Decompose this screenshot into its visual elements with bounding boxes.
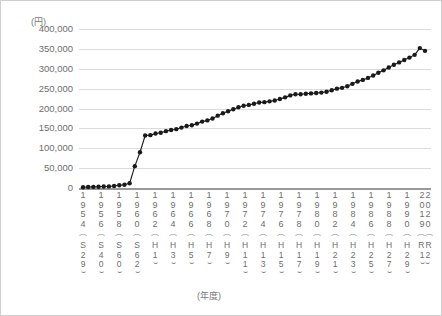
series-markers	[81, 46, 427, 190]
data-point	[418, 46, 422, 50]
data-point	[361, 78, 365, 82]
x-axis-tick-group: 1986⌒H25⌣	[364, 191, 378, 275]
data-point	[267, 99, 271, 103]
x-tick-year: 20192020	[419, 191, 430, 229]
x-tick-era: ⌒H15⌣	[277, 236, 285, 275]
chart-container: (円) 400,000350,000300,000250,000200,0001…	[0, 0, 442, 316]
x-tick-year: 1968	[206, 191, 211, 229]
x-axis-tick-group: 1968⌒H7⌣	[202, 191, 216, 266]
x-axis-tick-group: 1964⌒H3⌣	[166, 191, 180, 266]
x-tick-year: 1988	[386, 191, 391, 229]
data-point	[371, 73, 375, 77]
x-tick-year: 1970	[224, 191, 229, 229]
data-point	[81, 185, 85, 189]
data-point	[241, 104, 245, 108]
data-point	[164, 129, 168, 133]
data-point	[205, 118, 209, 122]
x-tick-year: 1966	[188, 191, 193, 229]
x-tick-era: ⌒H7⌣	[205, 236, 213, 265]
x-tick-year: 1986	[368, 191, 373, 229]
y-axis-tick-label: 400,000	[13, 23, 73, 34]
data-point	[174, 127, 178, 131]
x-tick-era: ⌒H27⌣	[385, 236, 393, 275]
y-axis-tick-label: 0	[13, 182, 73, 193]
data-point	[273, 98, 277, 102]
data-point	[309, 91, 313, 95]
data-point	[319, 90, 323, 94]
data-point	[412, 53, 416, 57]
x-tick-era: ⌒H9⌣	[223, 236, 231, 265]
data-point	[195, 121, 199, 125]
data-point	[143, 133, 147, 137]
data-point	[304, 92, 308, 96]
x-tick-year: 1982	[332, 191, 337, 229]
data-point	[257, 100, 261, 104]
data-point	[350, 82, 354, 86]
data-point	[216, 113, 220, 117]
data-point	[293, 92, 297, 96]
data-point	[314, 91, 318, 95]
data-point	[96, 185, 100, 189]
x-axis-tick-group: 1970⌒H9⌣	[220, 191, 234, 266]
x-tick-year: 1956	[98, 191, 103, 229]
data-point	[133, 164, 137, 168]
data-point	[184, 124, 188, 128]
data-point	[169, 128, 173, 132]
x-axis-tick-group: 1988⌒H27⌣	[382, 191, 396, 275]
data-point	[127, 181, 131, 185]
data-point	[345, 84, 349, 88]
data-point	[340, 86, 344, 90]
x-axis-tick-group: 1962⌒H1⌣	[148, 191, 162, 266]
data-point	[148, 133, 152, 137]
x-axis-tick-group: 1972⌒H11⌣	[238, 191, 252, 275]
y-axis-tick-label: 150,000	[13, 122, 73, 133]
data-point	[153, 131, 157, 135]
y-axis-tick-label: 100,000	[13, 142, 73, 153]
x-axis-tick-group: 1966⌒H5⌣	[184, 191, 198, 266]
x-tick-era: ⌒S29⌣	[79, 236, 87, 275]
x-tick-year: 1978	[296, 191, 301, 229]
data-point	[200, 119, 204, 123]
data-point	[226, 109, 230, 113]
y-axis-tick-label: 350,000	[13, 43, 73, 54]
x-tick-year: 1984	[350, 191, 355, 229]
data-point	[107, 184, 111, 188]
data-point	[138, 150, 142, 154]
x-tick-year: 1990	[404, 191, 409, 229]
data-point	[330, 88, 334, 92]
data-point	[231, 107, 235, 111]
x-axis-tick-group: 1958⌒S60⌣	[112, 191, 126, 275]
data-point	[402, 58, 406, 62]
data-point	[381, 68, 385, 72]
y-axis-tick-label: 50,000	[13, 162, 73, 173]
data-point	[262, 100, 266, 104]
data-point	[221, 111, 225, 115]
data-point	[407, 55, 411, 59]
data-point	[190, 123, 194, 127]
x-tick-era: ⌒H19⌣	[313, 236, 321, 275]
y-axis-tick-label: 200,000	[13, 103, 73, 114]
x-tick-era: ⌒S40⌣	[97, 236, 105, 275]
data-point	[122, 183, 126, 187]
x-axis-tick-group: 1982⌒H21⌣	[328, 191, 342, 275]
x-axis-tick-group: 1978⌒H17⌣	[292, 191, 306, 275]
x-tick-era: ⌒H5⌣	[187, 236, 195, 265]
x-tick-era: ⌒⌒RR12⌣⌣	[417, 236, 433, 265]
x-axis-tick-group: 1954⌒S29⌣	[76, 191, 90, 275]
x-tick-era: ⌒H3⌣	[169, 236, 177, 265]
data-point	[283, 95, 287, 99]
data-point	[278, 97, 282, 101]
plot-area	[79, 29, 431, 188]
data-point	[102, 184, 106, 188]
data-point	[392, 63, 396, 67]
x-tick-year: 1972	[242, 191, 247, 229]
gridline	[79, 188, 431, 190]
x-tick-era: ⌒S62⌣	[133, 236, 141, 275]
data-point	[117, 183, 121, 187]
x-axis-tick-group: 1956⌒S40⌣	[94, 191, 108, 275]
x-tick-year: 1980	[314, 191, 319, 229]
x-tick-era: ⌒H25⌣	[367, 236, 375, 275]
x-tick-year: 1962	[152, 191, 157, 229]
x-axis-tick-group: 20192020⌒⌒RR12⌣⌣	[414, 191, 436, 266]
x-tick-era: ⌒H13⌣	[259, 236, 267, 275]
